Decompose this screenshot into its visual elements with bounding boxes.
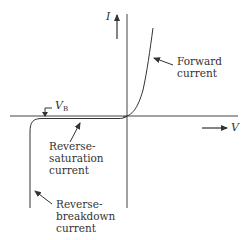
iv-curve-diagram [0, 0, 247, 240]
breakdown-pointer-arrow-icon [35, 191, 52, 204]
rev-sat-line3: current [49, 164, 104, 176]
rev-bd-line1: Reverse- [56, 198, 115, 210]
forward-line1: Forward [177, 55, 222, 67]
reverse-saturation-label: Reverse- saturation current [49, 140, 104, 176]
y-axis-label: I [106, 11, 110, 23]
x-axis-label: V [231, 122, 239, 134]
forward-current-label: Forward current [177, 55, 222, 79]
breakdown-voltage-label: VB [55, 100, 68, 115]
reverse-breakdown-label: Reverse- breakdown current [56, 198, 115, 234]
vb-subscript: B [63, 105, 68, 113]
rev-sat-line2: saturation [49, 152, 104, 164]
rev-bd-line3: current [56, 222, 115, 234]
rev-bd-line2: breakdown [56, 210, 115, 222]
vb-main: V [55, 99, 63, 112]
forward-pointer-arrow-icon [154, 58, 173, 65]
forward-line2: current [177, 67, 222, 79]
rev-sat-line1: Reverse- [49, 140, 104, 152]
